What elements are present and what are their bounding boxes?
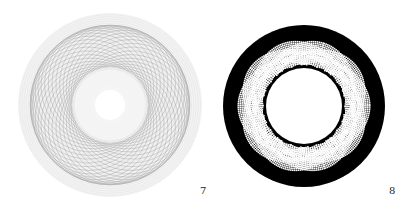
dotted-rosette-ring: [221, 23, 387, 189]
moire-ring-pattern: [14, 9, 206, 201]
figure-8: [221, 23, 387, 189]
figure-label-7: 7: [200, 186, 206, 196]
figure-7: [14, 9, 206, 201]
figure-label-8: 8: [389, 186, 395, 196]
